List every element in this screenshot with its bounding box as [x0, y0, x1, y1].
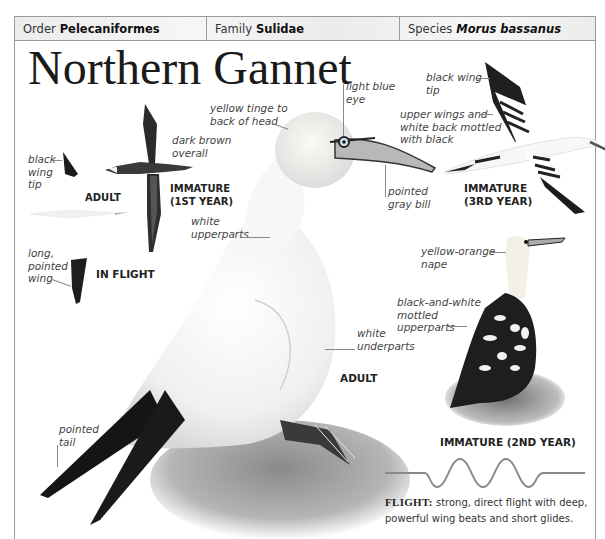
order-value: Pelecaniformes [60, 22, 160, 36]
family-label: Family [215, 22, 252, 36]
caption-immature-2nd-year: IMMATURE (2ND YEAR) [440, 436, 576, 449]
leader-line [490, 252, 506, 253]
adult-gannet-illustration [30, 100, 410, 530]
leader-line [57, 445, 58, 467]
flight-heading: FLIGHT: [385, 496, 433, 508]
caption-adult: ADULT [340, 372, 377, 385]
taxonomy-family: Family Sulidae [206, 17, 399, 40]
label-black-and-white-mottled: black-and-white mottled upperparts [397, 296, 481, 334]
species-value: Morus bassanus [456, 22, 561, 36]
flight-pattern-wave [385, 455, 585, 490]
leader-line [385, 165, 386, 197]
taxonomy-species: Species Morus bassanus [399, 17, 595, 40]
label-pointed-gray-bill: pointed gray bill [388, 185, 430, 210]
species-label: Species [408, 22, 452, 36]
caption-immature-3rd-year: IMMATURE (3RD YEAR) [464, 182, 532, 208]
leader-line [242, 237, 270, 238]
taxonomy-bar: Order Pelecaniformes Family Sulidae Spec… [14, 16, 596, 41]
leader-line [477, 78, 490, 79]
label-pointed-tail: pointed tail [59, 423, 99, 448]
page-title: Northern Gannet [28, 42, 352, 95]
leader-line [343, 84, 344, 136]
family-value: Sulidae [256, 22, 304, 36]
label-white-upperparts: white upperparts [191, 215, 249, 240]
flight-description: FLIGHT: strong, direct flight with deep,… [385, 494, 590, 526]
leader-line [479, 114, 493, 115]
label-yellow-orange-nape: yellow-orange nape [421, 245, 495, 270]
order-label: Order [23, 22, 56, 36]
taxonomy-order: Order Pelecaniformes [15, 17, 206, 40]
leader-line [447, 326, 467, 327]
label-light-blue-eye: light blue eye [346, 80, 395, 105]
leader-line [325, 349, 355, 350]
label-black-wing-tip-3rd: black wing tip [426, 71, 482, 96]
